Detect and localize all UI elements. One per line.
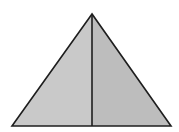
diagram-canvas: [0, 0, 179, 132]
triangle-diagram: [0, 0, 179, 132]
